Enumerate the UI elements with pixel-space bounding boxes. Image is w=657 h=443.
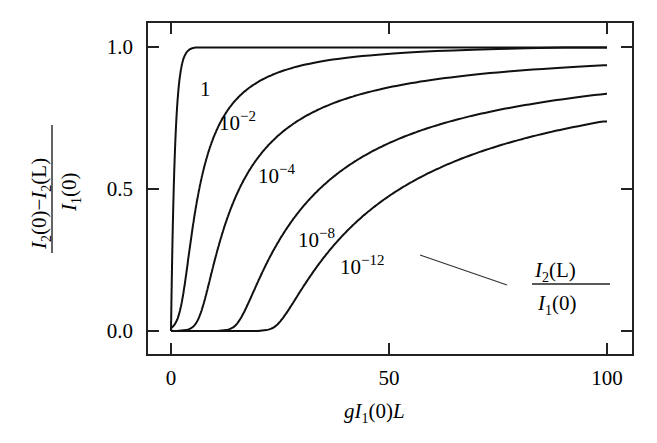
y-tick-label: 0.0 xyxy=(107,319,133,343)
svg-text:I1(0): I1(0) xyxy=(537,291,577,318)
y-axis-label: I2(0)−I2(L) I1(0) xyxy=(27,125,84,253)
curve-label: 10−8 xyxy=(298,225,335,252)
svg-text:I2(0)−I2(L): I2(0)−I2(L) xyxy=(27,158,54,250)
annotation-label: I2(L) I1(0) xyxy=(532,258,610,318)
curves xyxy=(171,48,607,331)
axis-tick-labels: 0501000.00.51.0 xyxy=(107,35,623,390)
y-tick-label: 1.0 xyxy=(107,35,133,59)
curve-labels: 110−210−410−810−12 xyxy=(200,77,384,279)
x-tick-label: 100 xyxy=(591,366,623,390)
curve-label: 10−4 xyxy=(258,161,295,188)
svg-text:gI1(0)L: gI1(0)L xyxy=(344,399,405,426)
chart: 0501000.00.51.0 110−210−410−810−12 I2(L)… xyxy=(0,0,657,443)
x-tick-label: 50 xyxy=(379,366,400,390)
x-axis-label: gI1(0)L xyxy=(344,399,405,426)
y-tick-label: 0.5 xyxy=(107,177,133,201)
svg-text:I2(L): I2(L) xyxy=(534,258,576,285)
svg-text:I1(0): I1(0) xyxy=(57,173,84,213)
curve-label: 1 xyxy=(200,77,211,101)
curve-label: 10−12 xyxy=(340,252,384,279)
curve-10e-2 xyxy=(171,48,607,331)
curve-label: 10−2 xyxy=(219,108,256,135)
x-tick-label: 0 xyxy=(166,366,177,390)
curve-1 xyxy=(171,48,607,331)
annotation-leader-line xyxy=(420,255,507,285)
